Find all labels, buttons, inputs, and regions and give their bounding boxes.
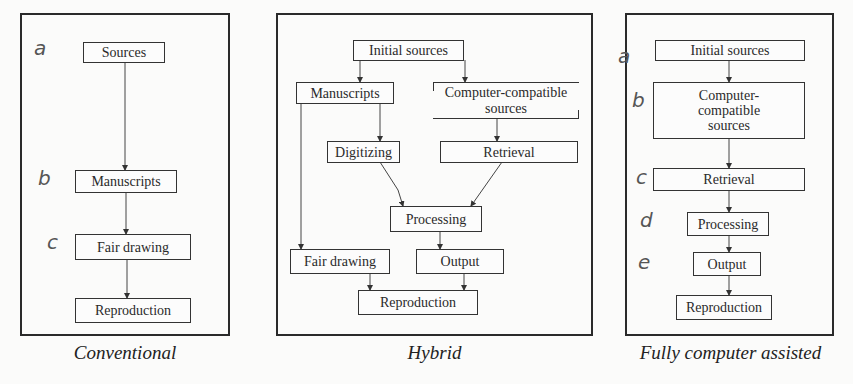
annotation-a: a	[34, 36, 46, 60]
node-output: Output	[693, 252, 761, 276]
node-manuscripts: Manuscripts	[75, 170, 177, 193]
node-digitizing: Digitizing	[327, 141, 400, 163]
node-retrieval: Retrieval	[653, 168, 805, 191]
annotation-e: e	[638, 250, 650, 274]
annotation-c: c	[47, 230, 58, 254]
node-initial-sources: Initial sources	[655, 40, 805, 61]
annotation-a: a	[618, 44, 630, 68]
node-reproduction: Reproduction	[358, 290, 478, 315]
node-reproduction: Reproduction	[75, 298, 191, 323]
caption-hybrid: Hybrid	[276, 342, 593, 364]
annotation-b: b	[38, 166, 51, 190]
node-processing: Processing	[390, 206, 482, 232]
node-computer-compatible-sources: Computer-compatible sources	[653, 82, 805, 139]
node-computer-compatible-sources: Computer-compatible sources	[433, 82, 579, 119]
node-manuscripts: Manuscripts	[296, 82, 394, 104]
node-sources: Sources	[83, 42, 165, 63]
caption-fully-computer-assisted: Fully computer assisted	[608, 342, 853, 364]
annotation-d: d	[640, 208, 653, 232]
node-fair-drawing: Fair drawing	[290, 249, 390, 274]
caption-conventional: Conventional	[20, 342, 230, 364]
node-output: Output	[416, 249, 504, 274]
node-retrieval: Retrieval	[440, 141, 578, 163]
node-processing: Processing	[687, 212, 769, 236]
node-reproduction: Reproduction	[676, 295, 772, 320]
annotation-c: c	[636, 165, 647, 189]
node-fair-drawing: Fair drawing	[75, 234, 191, 260]
node-initial-sources: Initial sources	[353, 40, 464, 61]
hybrid-panel	[276, 13, 593, 336]
annotation-b: b	[632, 88, 645, 112]
